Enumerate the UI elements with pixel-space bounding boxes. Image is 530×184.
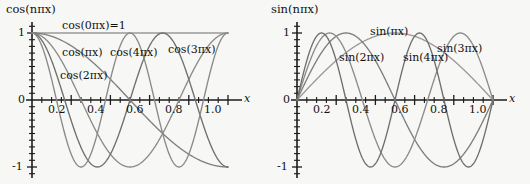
cosine-plot-canvas xyxy=(0,0,265,184)
cosine-xaxis-name: x xyxy=(244,93,250,104)
sine-ytick-label-minus1: -1 xyxy=(277,161,288,172)
sine-ytick-label-0: 0 xyxy=(283,94,290,105)
sine-xaxis-name: x xyxy=(509,93,515,104)
cosine-annotation-n2: cos(2πx) xyxy=(60,70,107,81)
cosine-annotation-n3: cos(3πx) xyxy=(168,44,215,55)
cosine-plot-panel: cos(nπx) 1 0 -1 0.2 0.4 0.6 0.8 1.0 x co… xyxy=(0,0,265,184)
cosine-xtick-label-06: 0.6 xyxy=(126,104,144,115)
cosine-xtick-label-04: 0.4 xyxy=(87,104,105,115)
sine-xtick-label-06: 0.6 xyxy=(391,104,409,115)
cosine-ytick-label-1: 1 xyxy=(18,27,25,38)
cosine-annotation-n1: cos(πx) xyxy=(62,47,102,58)
trig-basis-functions-figure: cos(nπx) 1 0 -1 0.2 0.4 0.6 0.8 1.0 x co… xyxy=(0,0,530,184)
sine-xtick-label-04: 0.4 xyxy=(352,104,370,115)
cosine-plot-title: cos(nπx) xyxy=(6,4,56,16)
sine-plot-title: sin(nπx) xyxy=(271,4,318,16)
sine-xtick-label-08: 0.8 xyxy=(430,104,448,115)
cosine-xtick-label-08: 0.8 xyxy=(165,104,183,115)
cosine-ytick-label-0: 0 xyxy=(18,94,25,105)
sine-plot-panel: sin(nπx) 1 0 -1 0.2 0.4 0.6 0.8 1.0 x si… xyxy=(265,0,530,184)
sine-ytick-label-1: 1 xyxy=(283,27,290,38)
sine-annotation-n2: sin(2πx) xyxy=(339,52,384,63)
cosine-xtick-label-02: 0.2 xyxy=(48,104,66,115)
cosine-annotation-n4: cos(4πx) xyxy=(110,47,157,58)
sine-xtick-label-02: 0.2 xyxy=(313,104,331,115)
cosine-xtick-label-10: 1.0 xyxy=(204,104,222,115)
sine-xtick-label-10: 1.0 xyxy=(469,104,487,115)
cosine-annotation-n0: cos(0πx)=1 xyxy=(62,20,126,31)
sine-annotation-n1: sin(πx) xyxy=(370,26,408,37)
sine-annotation-n4: sin(4πx) xyxy=(403,52,448,63)
cosine-ytick-label-minus1: -1 xyxy=(12,161,23,172)
